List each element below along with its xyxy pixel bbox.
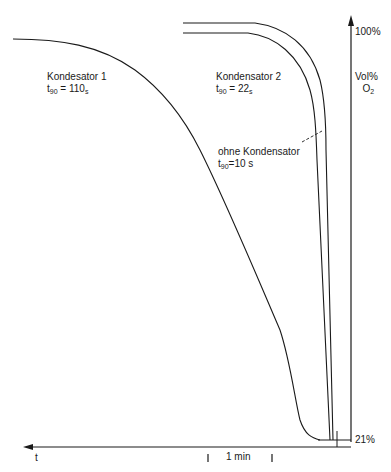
k1-name: Kondesator 1 (47, 71, 107, 83)
y-axis-arrow-icon (348, 15, 354, 26)
k2-t90: t90 = 22s (216, 83, 281, 98)
y-tick-100: 100% (355, 26, 381, 38)
k0-t90: t90=10 s (218, 158, 300, 173)
annotation-pointer (302, 131, 322, 142)
label-ohne-kondensator: ohne Kondensator t90=10 s (218, 146, 300, 173)
y-axis-unit: Vol% O2 (355, 71, 378, 98)
label-kondensator-1: Kondesator 1 t90 = 110s (47, 71, 107, 98)
curve-kondensator-1 (13, 39, 320, 440)
x-scale-label: 1 min (226, 451, 250, 463)
x-axis-arrow-icon (23, 444, 33, 450)
y-tick-21: 21% (355, 434, 375, 446)
label-kondensator-2: Kondensator 2 t90 = 22s (216, 71, 281, 98)
k1-t90: t90 = 110s (47, 83, 107, 98)
k0-name: ohne Kondensator (218, 146, 300, 158)
x-axis-label: t (35, 452, 38, 464)
k2-name: Kondensator 2 (216, 71, 281, 83)
